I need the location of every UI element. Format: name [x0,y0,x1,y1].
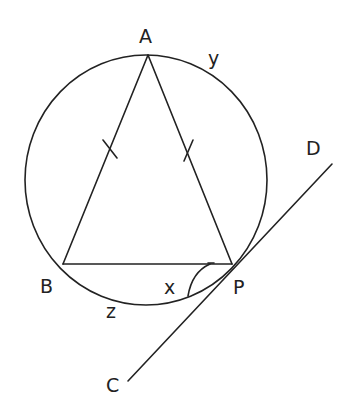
label-point-p: P [233,276,244,298]
label-point-c: C [106,374,119,396]
label-point-d: D [306,137,321,159]
side-ab [63,55,148,264]
label-angle-x: x [164,276,175,298]
label-point-a: A [139,25,152,47]
angle-x-arc [188,264,210,296]
circle [25,55,267,305]
geometry-diagram: A y B z x P D C [0,0,346,409]
label-point-b: B [40,275,53,297]
label-arc-y: y [208,47,219,69]
tick-mark-ab [103,140,117,158]
label-arc-z: z [106,300,116,322]
side-ap [148,55,232,264]
tangent-line-cd [128,164,332,381]
